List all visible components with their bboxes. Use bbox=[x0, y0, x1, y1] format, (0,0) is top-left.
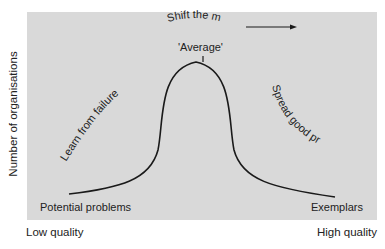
learn-from-failures-label: Learn from failures bbox=[0, 0, 120, 163]
arrow-head-icon bbox=[290, 25, 297, 30]
average-label: 'Average' bbox=[178, 41, 223, 53]
potential-problems-label: Potential problems bbox=[40, 201, 131, 213]
shift-the-mean-label: Shift the mean bbox=[0, 0, 222, 24]
exemplars-label: Exemplars bbox=[311, 201, 363, 213]
